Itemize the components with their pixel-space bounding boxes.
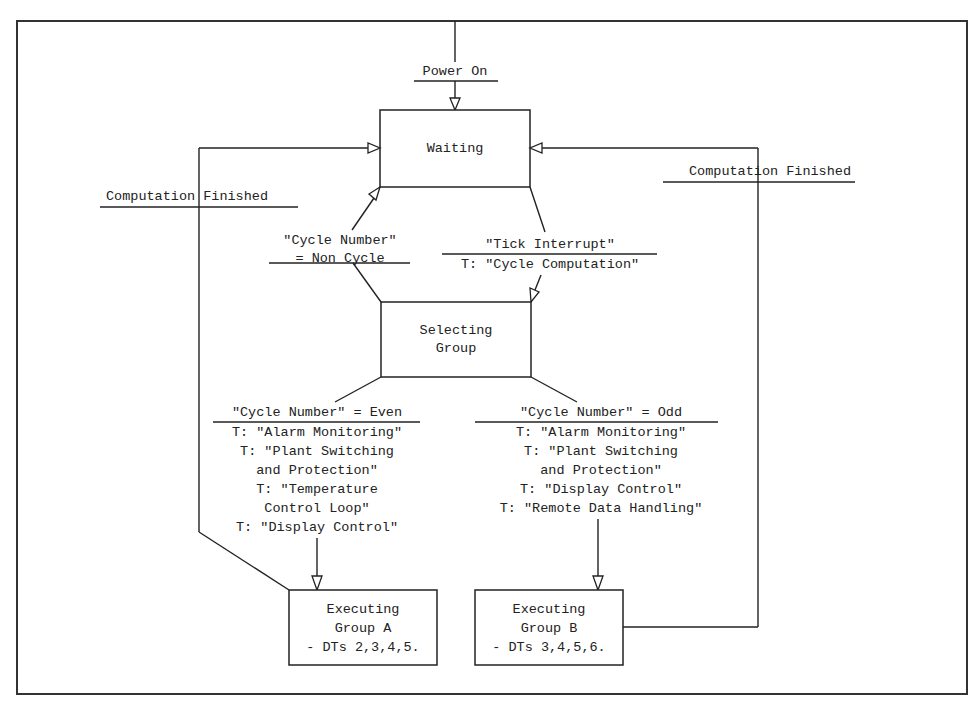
waiting-label: Waiting (427, 141, 484, 156)
group-b-label-1: Executing (513, 602, 586, 617)
transition-odd: "Cycle Number" = Odd T: "Alarm Monitorin… (475, 377, 718, 590)
arrow-down-icon (450, 98, 460, 110)
transition-even: "Cycle Number" = Even T: "Alarm Monitori… (213, 377, 420, 590)
transition-power-on: Power On (414, 21, 498, 110)
group-a-label-3: - DTs 2,3,4,5. (306, 640, 419, 655)
group-a-label-2: Group A (335, 621, 393, 636)
even-action-5: Control Loop" (264, 501, 369, 516)
even-action-6: T: "Display Control" (236, 520, 398, 535)
finished-left-label: Computation Finished (106, 189, 268, 204)
even-action-4: T: "Temperature (256, 482, 378, 497)
even-action-2: T: "Plant Switching (240, 444, 394, 459)
odd-action-2: T: "Plant Switching (524, 444, 678, 459)
arrow-down-icon (530, 288, 539, 302)
selecting-label-1: Selecting (420, 323, 493, 338)
state-executing-group-a: Executing Group A - DTs 2,3,4,5. (289, 590, 437, 665)
state-diagram: Power On Waiting Computation Finished Co… (0, 0, 979, 702)
selecting-label-2: Group (436, 341, 477, 356)
odd-action-1: T: "Alarm Monitoring" (516, 425, 686, 440)
non-cycle-label-2: = Non Cycle (295, 251, 384, 266)
arrow-right-icon (368, 143, 380, 153)
group-b-label-2: Group B (521, 621, 578, 636)
even-event-label: "Cycle Number" = Even (232, 405, 402, 420)
non-cycle-label-1: "Cycle Number" (283, 233, 396, 248)
odd-action-3: and Protection" (540, 463, 662, 478)
arrow-down-icon (312, 576, 322, 590)
arrow-down-icon (593, 576, 603, 590)
power-on-label: Power On (423, 64, 488, 79)
state-selecting-group: Selecting Group (381, 302, 531, 377)
arrow-up-icon (369, 187, 380, 200)
group-a-label-1: Executing (327, 602, 400, 617)
even-action-1: T: "Alarm Monitoring" (232, 425, 402, 440)
state-executing-group-b: Executing Group B - DTs 3,4,5,6. (475, 590, 623, 665)
odd-action-4: T: "Display Control" (520, 482, 682, 497)
transition-non-cycle: "Cycle Number" = Non Cycle (269, 187, 410, 302)
tick-event-label: "Tick Interrupt" (485, 237, 615, 252)
even-action-3: and Protection" (256, 463, 378, 478)
finished-right-label: Computation Finished (689, 164, 851, 179)
state-waiting: Waiting (380, 110, 530, 187)
odd-event-label: "Cycle Number" = Odd (520, 405, 682, 420)
arrow-left-icon (530, 143, 542, 153)
transition-finished-right: Computation Finished (530, 143, 855, 627)
transition-tick: "Tick Interrupt" T: "Cycle Computation" (442, 187, 657, 302)
odd-action-5: T: "Remote Data Handling" (500, 501, 703, 516)
group-b-label-3: - DTs 3,4,5,6. (492, 640, 605, 655)
tick-action-label: T: "Cycle Computation" (461, 257, 639, 272)
